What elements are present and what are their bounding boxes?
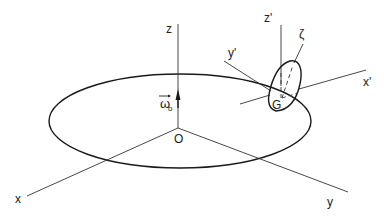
x-prime-axis xyxy=(299,70,366,89)
label-omega-zero: ω o xyxy=(159,95,173,114)
label-zeta: ζ xyxy=(299,27,305,41)
svg-text:o: o xyxy=(168,104,173,113)
label-g: G xyxy=(272,98,281,112)
label-x-prime: x' xyxy=(363,75,371,89)
y-axis xyxy=(178,128,348,192)
zeta-dashed-inner xyxy=(282,65,293,98)
diagram-canvas: z x y O ω o z' y' x' ζ G xyxy=(0,0,384,221)
label-z: z xyxy=(166,22,172,36)
x-axis xyxy=(27,128,178,196)
zeta-axis xyxy=(294,44,303,63)
y-prime-axis xyxy=(224,61,271,91)
label-x: x xyxy=(15,192,21,206)
label-y-prime: y' xyxy=(228,46,236,60)
label-origin: O xyxy=(174,132,183,146)
label-y: y xyxy=(327,195,333,209)
omega-arrow-icon xyxy=(176,89,181,108)
x-prime-axis-back xyxy=(240,95,270,104)
label-z-prime: z' xyxy=(264,11,272,25)
orbit-ellipse xyxy=(49,74,311,168)
